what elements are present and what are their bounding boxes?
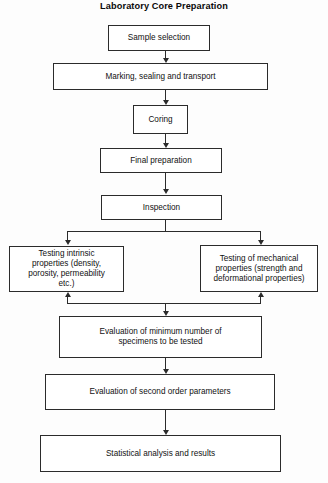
node-evaluation-minimum-specimens: Evaluation of minimum number of specimen…: [59, 316, 262, 358]
node-label: Evaluation of second order parameters: [89, 387, 230, 397]
connector-split-right-drop: [260, 231, 261, 240]
node-label: Statistical analysis and results: [106, 449, 215, 459]
connector-split-left-drop: [67, 231, 68, 240]
connector-final-preparation-to-inspection: [165, 173, 166, 189]
connector-second-order-to-statistical: [165, 410, 166, 430]
node-final-preparation: Final preparation: [100, 148, 222, 173]
node-label: Evaluation of minimum number of specimen…: [100, 327, 222, 347]
connector-minimum-to-second-order: [165, 358, 166, 369]
node-label: Coring: [148, 115, 172, 125]
connector-merge-stem: [165, 303, 166, 311]
node-statistical-analysis-results: Statistical analysis and results: [40, 435, 281, 472]
node-marking-sealing-transport: Marking, sealing and transport: [53, 63, 268, 90]
node-evaluation-second-order-parameters: Evaluation of second order parameters: [45, 374, 275, 410]
connector-sample-to-marking: [165, 51, 166, 58]
node-label: Marking, sealing and transport: [105, 72, 215, 82]
node-testing-mechanical-properties: Testing of mechanical properties (streng…: [200, 245, 318, 292]
node-label: Sample selection: [128, 33, 190, 43]
node-testing-intrinsic-properties: Testing intrinsic properties (density, p…: [9, 246, 124, 292]
node-coring: Coring: [133, 105, 188, 134]
connector-merge-bar: [67, 303, 261, 304]
node-sample-selection: Sample selection: [108, 25, 210, 51]
node-label: Testing of mechanical properties (streng…: [213, 254, 304, 284]
arrowhead-down-icon: [163, 189, 169, 194]
node-inspection: Inspection: [101, 195, 222, 220]
node-label: Testing intrinsic properties (density, p…: [28, 249, 105, 289]
connector-coring-to-final-preparation: [165, 134, 166, 143]
connector-marking-to-coring: [165, 90, 166, 100]
node-label: Inspection: [143, 203, 180, 213]
page-title: Laboratory Core Preparation: [0, 1, 328, 11]
connector-inspection-split-bar: [67, 231, 261, 232]
node-label: Final preparation: [130, 156, 191, 166]
arrowhead-down-icon: [65, 240, 71, 245]
flowchart-canvas: Laboratory Core Preparation Sample selec…: [0, 0, 328, 483]
